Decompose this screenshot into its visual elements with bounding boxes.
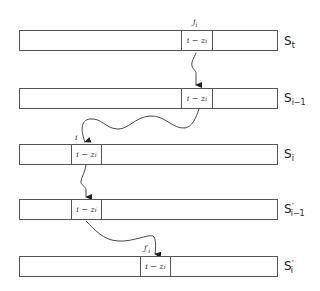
index-text: i bbox=[75, 133, 78, 142]
cell-sub: i bbox=[95, 151, 97, 158]
index-sub: i bbox=[195, 21, 197, 28]
cell-sub: i bbox=[164, 263, 166, 270]
cell-text: i − z bbox=[145, 262, 164, 271]
index-label-j-prime-i: j′i bbox=[144, 243, 150, 254]
label-s-prime-i-minus-1: S′i−1 bbox=[284, 202, 305, 218]
cell-text: i − z bbox=[187, 36, 206, 45]
index-label-ji: ji bbox=[193, 17, 197, 28]
cell-sub: i bbox=[95, 206, 97, 213]
label-s-i: Si bbox=[284, 147, 294, 163]
cell-i-minus-zi: i − zi bbox=[181, 89, 213, 108]
cell-text: i − z bbox=[76, 150, 95, 159]
label-sub: i bbox=[292, 154, 294, 163]
array-s-prime-i: i − zi bbox=[19, 256, 278, 277]
cell-sub: i bbox=[205, 95, 207, 102]
arrow-st-to-si-1 bbox=[192, 53, 196, 85]
arrow-si-1-to-si bbox=[82, 109, 199, 142]
array-s-i-minus-1: i − zi bbox=[19, 88, 278, 109]
cell-text: i − z bbox=[187, 94, 206, 103]
label-text: S bbox=[284, 91, 292, 105]
arrow-si-to-s'i-1 bbox=[81, 165, 86, 197]
label-text: S bbox=[284, 34, 292, 48]
index-label-i: i bbox=[75, 133, 78, 142]
array-s-t: i − zi bbox=[19, 30, 278, 51]
cell-i-minus-zi: i − zi bbox=[71, 200, 102, 219]
label-sub: i−1 bbox=[291, 209, 305, 218]
array-s-prime-i-minus-1: i − zi bbox=[19, 199, 278, 220]
index-sub: i bbox=[148, 247, 150, 254]
label-s-t: St bbox=[284, 34, 295, 50]
array-s-i: i − zi bbox=[19, 144, 278, 165]
label-s-i-minus-1: Si−1 bbox=[284, 91, 306, 107]
cell-sub: i bbox=[205, 37, 207, 44]
cell-i-minus-zi: i − zi bbox=[181, 31, 213, 50]
label-text: S bbox=[284, 147, 292, 161]
label-s-prime-i: S′i bbox=[284, 259, 293, 275]
label-sub: i bbox=[291, 266, 293, 275]
label-sub: t bbox=[292, 41, 295, 50]
cell-text: i − z bbox=[76, 205, 95, 214]
cell-i-minus-zi: i − zi bbox=[71, 145, 102, 164]
label-sub: i−1 bbox=[292, 98, 306, 107]
cell-i-minus-zi: i − zi bbox=[140, 257, 171, 276]
